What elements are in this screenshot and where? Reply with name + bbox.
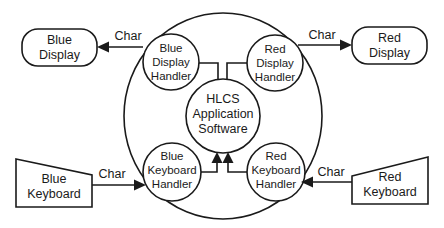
blue-keyboard-handler-line-2: Keyboard	[147, 164, 196, 176]
flow-red-display-label: Char	[308, 28, 335, 42]
red-keyboard-handler-line-3: Handler	[256, 178, 296, 190]
flow-red-keyboard-label: Char	[317, 165, 344, 179]
center-label-line-3: Software	[198, 122, 247, 136]
center-label-line-2: Application	[192, 107, 253, 121]
red-display-handler-line-1: Red	[264, 43, 285, 55]
red-keyboard-handler-line-2: Keyboard	[251, 164, 300, 176]
red-display-handler-line-3: Handler	[255, 71, 295, 83]
center-label-line-1: HLCS	[206, 92, 239, 106]
red-display-line-2: Display	[369, 46, 411, 60]
diagram-canvas: HLCS Application Software Blue Display H…	[0, 0, 444, 228]
red-keyboard-handler-line-1: Red	[265, 150, 286, 162]
blue-keyboard-line-2: Keyboard	[27, 187, 81, 201]
blue-display-line-1: Blue	[47, 33, 72, 47]
red-keyboard-line-2: Keyboard	[363, 185, 417, 199]
hlcs-application-software-process[interactable]: HLCS Application Software	[186, 79, 260, 153]
flow-blue-display-char[interactable]: Char	[97, 29, 143, 53]
flow-red-display-char[interactable]: Char	[298, 28, 352, 51]
blue-keyboard-handler-line-1: Blue	[160, 150, 183, 162]
blue-keyboard-terminator[interactable]: Blue Keyboard	[16, 159, 92, 207]
blue-keyboard-handler-line-3: Handler	[152, 178, 192, 190]
blue-display-handler-process[interactable]: Blue Display Handler	[143, 34, 199, 90]
flow-blue-display-label: Char	[114, 29, 141, 43]
blue-display-handler-line-1: Blue	[159, 42, 182, 54]
red-keyboard-handler-process[interactable]: Red Keyboard Handler	[247, 143, 305, 201]
red-display-handler-line-2: Display	[256, 57, 294, 69]
red-display-terminator[interactable]: Red Display	[352, 27, 427, 64]
red-display-line-1: Red	[378, 31, 401, 45]
blue-display-line-2: Display	[39, 48, 81, 62]
blue-display-handler-line-3: Handler	[151, 70, 191, 82]
red-keyboard-terminator[interactable]: Red Keyboard	[352, 157, 428, 204]
blue-display-handler-line-2: Display	[152, 56, 190, 68]
flow-blue-keyboard-label: Char	[98, 167, 125, 181]
red-keyboard-line-1: Red	[379, 170, 402, 184]
flow-blue-keyboard-char[interactable]: Char	[92, 167, 146, 191]
blue-keyboard-line-1: Blue	[41, 172, 66, 186]
blue-display-terminator[interactable]: Blue Display	[22, 29, 97, 66]
red-display-handler-process[interactable]: Red Display Handler	[247, 35, 303, 91]
blue-keyboard-handler-process[interactable]: Blue Keyboard Handler	[143, 143, 201, 201]
